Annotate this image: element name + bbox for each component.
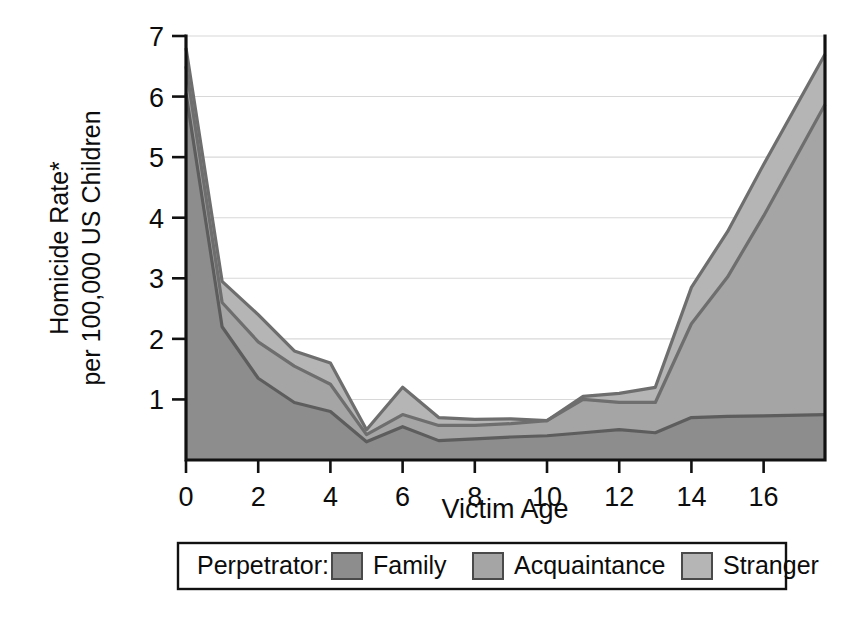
legend-item-label: Acquaintance bbox=[514, 551, 666, 579]
y-tick-label: 4 bbox=[149, 204, 164, 234]
x-tick-label: 14 bbox=[676, 482, 706, 512]
legend-swatch bbox=[332, 553, 362, 579]
y-tick-label: 5 bbox=[149, 143, 164, 173]
y-tick-label: 2 bbox=[149, 325, 164, 355]
x-tick-label: 0 bbox=[178, 482, 193, 512]
y-tick-label: 3 bbox=[149, 264, 164, 294]
x-tick-label: 6 bbox=[395, 482, 410, 512]
x-tick-label: 16 bbox=[749, 482, 779, 512]
x-tick-label: 12 bbox=[604, 482, 634, 512]
homicide-rate-area-chart: 0246810121416 1234567 Victim Age Homicid… bbox=[0, 0, 856, 625]
x-axis-title: Victim Age bbox=[441, 494, 568, 524]
legend-swatch bbox=[682, 553, 712, 579]
legend-items: FamilyAcquaintanceStranger bbox=[332, 551, 819, 579]
y-tick-label: 7 bbox=[149, 22, 164, 52]
legend-item-label: Family bbox=[373, 551, 447, 579]
chart-container: 0246810121416 1234567 Victim Age Homicid… bbox=[0, 0, 856, 625]
legend-title: Perpetrator: bbox=[197, 551, 329, 579]
y-axis-title-line1: Homicide Rate* bbox=[45, 161, 73, 335]
y-axis-title-line2: per 100,000 US Children bbox=[77, 110, 105, 385]
x-tick-label: 2 bbox=[251, 482, 266, 512]
legend: Perpetrator: FamilyAcquaintanceStranger bbox=[178, 543, 819, 589]
y-tick-label: 1 bbox=[149, 385, 164, 415]
x-tick-label: 4 bbox=[323, 482, 338, 512]
y-tick-label: 6 bbox=[149, 83, 164, 113]
legend-item-label: Stranger bbox=[723, 551, 819, 579]
legend-swatch bbox=[473, 553, 503, 579]
